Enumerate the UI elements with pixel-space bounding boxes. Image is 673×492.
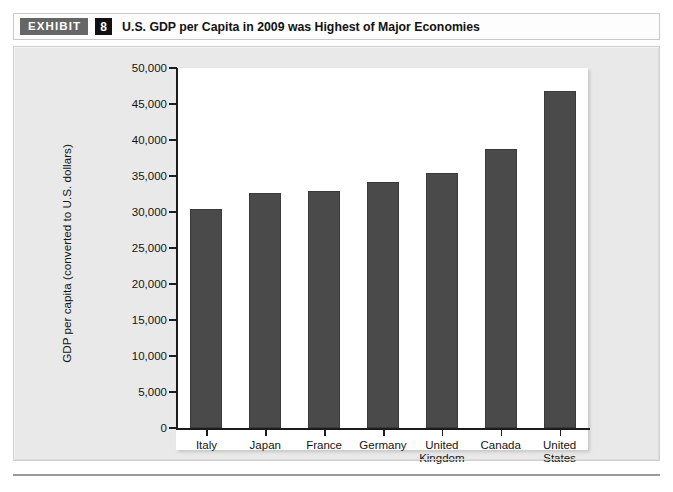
bar-united-states: [544, 91, 576, 428]
x-axis-label-italy: Italy: [177, 439, 236, 452]
bar-united-kingdom: [426, 173, 458, 428]
y-axis-tick-label: 35,000: [105, 170, 167, 182]
bar-italy: [190, 209, 222, 428]
y-axis-tick: [169, 103, 177, 105]
x-axis-label-line: States: [530, 452, 589, 465]
chart-panel: GDP per capita (converted to U.S. dollar…: [13, 46, 660, 461]
y-axis-tick: [169, 67, 177, 69]
exhibit-page: EXHIBIT 8 U.S. GDP per Capita in 2009 wa…: [0, 0, 673, 492]
x-axis-tick: [501, 430, 503, 436]
y-axis-tick-label: 40,000: [105, 134, 167, 146]
x-axis-tick: [265, 430, 267, 436]
y-axis-tick-label: 0: [105, 422, 167, 434]
bar-france: [308, 191, 340, 428]
y-axis-tick: [169, 175, 177, 177]
x-axis-label-line: Canada: [471, 439, 530, 452]
bar-japan: [249, 193, 281, 428]
x-axis-tick: [324, 430, 326, 436]
bar-canada: [485, 149, 517, 428]
y-axis-tick-label: 20,000: [105, 278, 167, 290]
y-axis-tick-label: 15,000: [105, 314, 167, 326]
x-axis-tick: [560, 430, 562, 436]
y-axis-tick-label: 5,000: [105, 386, 167, 398]
x-axis-label-united-kingdom: UnitedKingdom: [412, 439, 471, 465]
x-axis-label-line: Japan: [236, 439, 295, 452]
x-axis-label-line: United: [530, 439, 589, 452]
exhibit-number-badge: 8: [95, 18, 112, 35]
x-axis-tick: [206, 430, 208, 436]
y-axis-tick-label: 10,000: [105, 350, 167, 362]
x-axis-label-france: France: [295, 439, 354, 452]
x-axis-label-united-states: UnitedStates: [530, 439, 589, 465]
x-axis-label-line: Kingdom: [412, 452, 471, 465]
exhibit-title: U.S. GDP per Capita in 2009 was Highest …: [122, 20, 480, 34]
x-axis-label-line: France: [295, 439, 354, 452]
y-axis-tick: [169, 319, 177, 321]
y-axis-tick: [169, 427, 177, 429]
y-axis-tick: [169, 139, 177, 141]
exhibit-tag-label: EXHIBIT: [20, 18, 88, 36]
x-axis-label-line: Italy: [177, 439, 236, 452]
x-axis-tick: [442, 430, 444, 436]
y-axis-tick: [169, 283, 177, 285]
x-axis-label-line: Germany: [354, 439, 413, 452]
bar-germany: [367, 182, 399, 428]
y-axis-tick-label: 45,000: [105, 98, 167, 110]
y-axis-tick: [169, 355, 177, 357]
y-axis-tick: [169, 211, 177, 213]
x-axis-label-japan: Japan: [236, 439, 295, 452]
x-axis-label-canada: Canada: [471, 439, 530, 452]
y-axis-tick-labels: 05,00010,00015,00020,00025,00030,00035,0…: [42, 47, 167, 460]
x-axis-label-line: United: [412, 439, 471, 452]
y-axis-tick: [169, 247, 177, 249]
y-axis-tick: [169, 391, 177, 393]
y-axis-tick-label: 30,000: [105, 206, 167, 218]
x-axis-tick: [383, 430, 385, 436]
y-axis-tick-label: 50,000: [105, 62, 167, 74]
bottom-rule: [13, 474, 660, 476]
x-axis-label-germany: Germany: [354, 439, 413, 452]
y-axis-tick-label: 25,000: [105, 242, 167, 254]
exhibit-header: EXHIBIT 8 U.S. GDP per Capita in 2009 wa…: [13, 13, 660, 40]
